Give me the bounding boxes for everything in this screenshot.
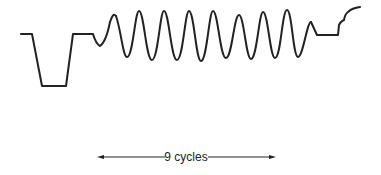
waveform-burst [116, 10, 311, 61]
arrow-left-icon [97, 155, 104, 159]
arrow-right-icon [269, 155, 276, 159]
cycle-span-annotation: 9 cycles [97, 150, 276, 164]
waveform-diagram: 9 cycles [0, 0, 381, 175]
waveform-post-burst [311, 7, 360, 35]
waveform-pre-burst [21, 15, 116, 86]
cycles-label: 9 cycles [164, 150, 207, 164]
